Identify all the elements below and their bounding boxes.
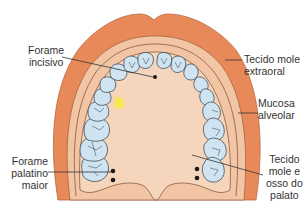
label-forame-palatino-maior: Forame palatino maior [4, 155, 48, 191]
maxillary-arch-diagram: Forame incisivo Tecido mole extraoral Mu… [0, 0, 307, 210]
label-tecido-mole-osso-palato: Tecido mole e osso do palato [266, 153, 303, 201]
label-tecido-mole-extraoral: Tecido mole extraoral [244, 53, 300, 77]
label-forame-incisivo: Forame incisivo [28, 44, 64, 68]
incisive-foramen [153, 75, 157, 79]
label-mucosa-alveolar: Mucosa alveolar [258, 97, 295, 121]
